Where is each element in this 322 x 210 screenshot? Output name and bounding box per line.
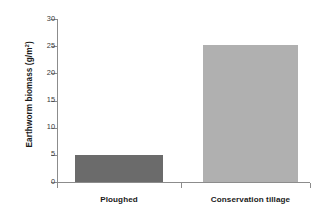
y-axis-line: [57, 19, 58, 183]
y-axis-title-tail: ): [25, 41, 34, 44]
y-tick-label: 20: [47, 68, 55, 77]
y-axis-title-text: Earthworm biomass (g/m: [25, 47, 34, 147]
y-tick-label: 5: [51, 149, 55, 158]
y-tick-label: 10: [47, 122, 55, 131]
x-tick-mark-2: [310, 183, 311, 188]
x-category-label-conservation-tillage: Conservation tillage: [203, 195, 298, 204]
x-tick-mark-0: [57, 183, 58, 188]
plot-area: 051015202530 PloughedConservation tillag…: [57, 19, 310, 183]
y-axis-title: Earthworm biomass (g/m2): [24, 14, 35, 174]
bar-ploughed[interactable]: [75, 155, 163, 182]
y-tick-label: 0: [51, 177, 55, 186]
y-axis-title-superscript: 2: [24, 44, 30, 47]
x-tick-mark-1: [181, 183, 182, 188]
y-tick-label: 25: [47, 41, 55, 50]
y-tick-label: 30: [47, 14, 55, 23]
bar-conservation-tillage[interactable]: [203, 45, 298, 182]
bar-chart-figure: Earthworm biomass (g/m2) 051015202530 Pl…: [0, 0, 322, 210]
y-tick-label: 15: [47, 95, 55, 104]
x-category-label-ploughed: Ploughed: [75, 195, 163, 204]
x-axis-line: [57, 182, 310, 183]
